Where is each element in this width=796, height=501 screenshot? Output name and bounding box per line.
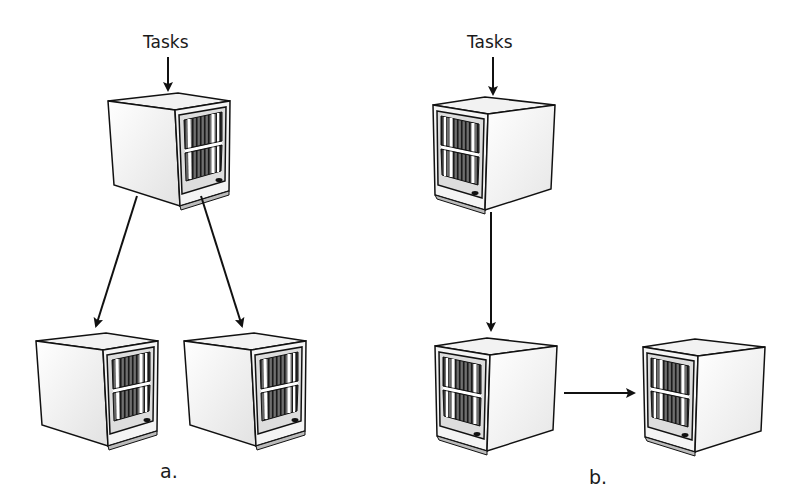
- panel-a: [36, 57, 306, 450]
- caption-a: a.: [160, 460, 178, 482]
- computer-b-top: [433, 97, 555, 214]
- tasks-label-a: Tasks: [143, 32, 189, 52]
- arrow-a-to-right: [201, 196, 242, 326]
- caption-b: b.: [589, 466, 607, 488]
- tasks-label-b: Tasks: [467, 32, 513, 52]
- arrow-a-to-left: [96, 196, 137, 326]
- computer-a-bottom-left: [36, 333, 158, 450]
- computer-b-bottom-right: [643, 339, 765, 456]
- computer-a-top: [108, 93, 230, 210]
- panel-b: [433, 57, 765, 456]
- computer-a-bottom-right: [184, 333, 306, 450]
- computer-b-bottom-left: [435, 338, 557, 455]
- diagram-canvas: [0, 0, 796, 501]
